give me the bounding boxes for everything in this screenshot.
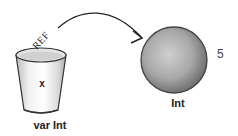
variable-type-label: var Int	[22, 119, 78, 131]
reference-diagram: REF x var Int Int 5	[0, 0, 238, 136]
object-type-label: Int	[163, 97, 193, 109]
diagram-canvas	[0, 0, 238, 136]
object-ball-icon	[141, 27, 207, 93]
variable-name: x	[37, 78, 47, 89]
object-value: 5	[217, 47, 224, 61]
curved-arrow-icon	[58, 13, 142, 43]
